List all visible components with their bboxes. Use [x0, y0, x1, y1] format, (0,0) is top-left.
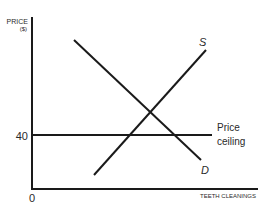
- price-ceiling-label-line1: Price: [217, 122, 240, 133]
- price-ceiling-chart: PRICE ($) 40 0 TEETH CLEANINGS Price cei…: [0, 0, 268, 210]
- chart-svg: PRICE ($) 40 0 TEETH CLEANINGS Price cei…: [0, 0, 268, 210]
- demand-label: D: [201, 164, 209, 176]
- y-axis-label-line1: PRICE: [7, 18, 29, 25]
- y-tick-40: 40: [16, 130, 28, 142]
- price-ceiling-label-line2: ceiling: [217, 136, 245, 147]
- supply-label: S: [199, 36, 207, 48]
- supply-curve: [94, 50, 206, 175]
- x-axis-label: TEETH CLEANINGS: [200, 193, 256, 199]
- demand-curve: [74, 40, 201, 160]
- y-axis-label-line2: ($): [20, 26, 27, 32]
- x-tick-0: 0: [29, 192, 35, 204]
